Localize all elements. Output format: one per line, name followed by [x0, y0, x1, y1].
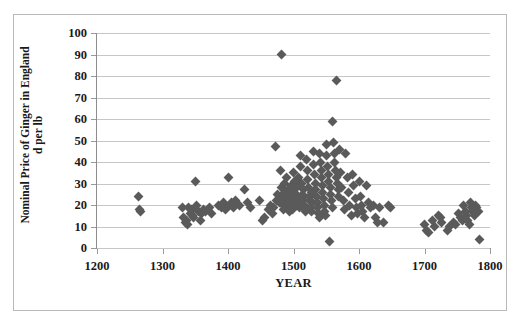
- scatter-point: [325, 237, 335, 247]
- x-tick-label: 1500: [266, 256, 322, 274]
- x-tick-label: 1600: [331, 256, 387, 274]
- y-tick-label-text: 70: [47, 92, 87, 104]
- gridline-y: [97, 33, 490, 34]
- x-tick-label-text: 1600: [347, 259, 372, 273]
- scatter-point: [239, 185, 249, 195]
- y-tick-label: 40: [44, 156, 87, 168]
- y-tick-label: 0: [44, 242, 87, 254]
- scatter-point: [362, 181, 372, 191]
- y-tick-label-text: 100: [47, 27, 87, 39]
- y-tick-label-text: 20: [47, 199, 87, 211]
- gridline-y: [97, 119, 490, 120]
- x-tick-mark: [294, 249, 295, 254]
- y-tick-label: 20: [44, 199, 87, 211]
- x-tick-mark: [359, 249, 360, 254]
- x-tick-mark: [490, 249, 491, 254]
- x-tick-label-text: 1400: [216, 259, 241, 273]
- gridline-y: [97, 162, 490, 163]
- y-axis-title-line1: Nominal Price of Ginger in England: [19, 40, 32, 230]
- y-tick-label: 60: [44, 113, 87, 125]
- x-tick-mark: [97, 249, 98, 254]
- y-tick-label-text: 90: [47, 49, 87, 61]
- y-tick-label-text: 80: [47, 70, 87, 82]
- y-tick-label: 10: [44, 221, 87, 233]
- y-tick-label: 90: [44, 49, 87, 61]
- x-axis-title: YEAR: [97, 276, 490, 291]
- y-tick-label: 80: [44, 70, 87, 82]
- y-tick-label-text: 10: [47, 221, 87, 233]
- scatter-point: [475, 234, 485, 244]
- y-tick-label: 50: [44, 135, 87, 147]
- y-tick-label-text: 40: [47, 156, 87, 168]
- scatter-point: [134, 191, 144, 201]
- y-tick-label-text: 60: [47, 113, 87, 125]
- y-tick-label-text: 30: [47, 178, 87, 190]
- scatter-point: [246, 202, 256, 212]
- gridline-y: [97, 141, 490, 142]
- x-tick-label: 1200: [69, 256, 125, 274]
- x-tick-label: 1800: [462, 256, 518, 274]
- scatter-point: [270, 142, 280, 152]
- scatter-point: [341, 148, 351, 158]
- scatter-point: [277, 50, 287, 60]
- scatter-point: [190, 176, 200, 186]
- y-tick-label: 70: [44, 92, 87, 104]
- scatter-point: [359, 213, 369, 223]
- y-tick-label-text: 0: [47, 242, 87, 254]
- chart-figure: Nominal Price of Ginger in England d per…: [0, 0, 524, 328]
- x-tick-label-text: 1300: [150, 259, 175, 273]
- plot-area: [97, 33, 490, 248]
- x-tick-mark: [163, 249, 164, 254]
- scatter-point: [207, 209, 217, 219]
- y-tick-label: 100: [44, 27, 87, 39]
- scatter-point: [328, 116, 338, 126]
- x-tick-mark: [425, 249, 426, 254]
- gridline-y: [97, 76, 490, 77]
- x-tick-label-text: 1200: [85, 259, 110, 273]
- y-tick-label-text: 50: [47, 135, 87, 147]
- x-tick-label-text: 1800: [478, 259, 503, 273]
- scatter-point: [223, 172, 233, 182]
- gridline-y: [97, 55, 490, 56]
- x-tick-mark: [228, 249, 229, 254]
- y-axis-title: Nominal Price of Ginger in England d per…: [19, 40, 45, 230]
- x-tick-label: 1700: [397, 256, 453, 274]
- x-tick-label-text: 1500: [281, 259, 306, 273]
- x-tick-label-text: 1700: [412, 259, 437, 273]
- x-tick-label: 1300: [135, 256, 191, 274]
- x-tick-label: 1400: [200, 256, 256, 274]
- gridline-y: [97, 98, 490, 99]
- y-tick-label: 30: [44, 178, 87, 190]
